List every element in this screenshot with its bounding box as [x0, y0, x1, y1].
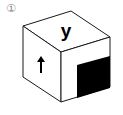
top-face-letter: y [61, 20, 72, 41]
cube-diagram: y [0, 0, 123, 115]
